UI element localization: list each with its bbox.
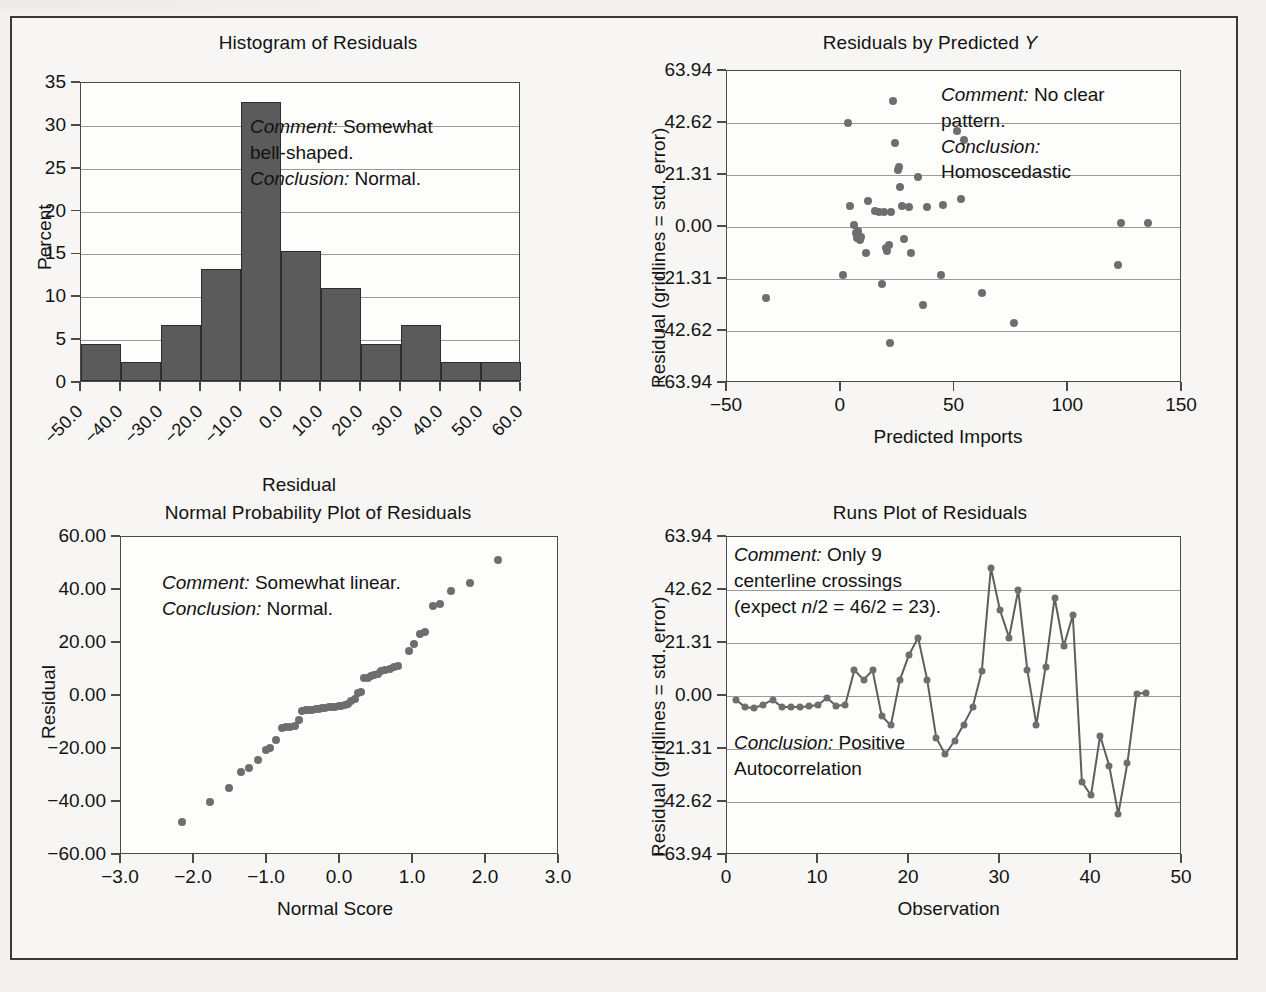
scatter-x-tick-label: 0 — [834, 394, 845, 416]
scatter-point — [844, 119, 852, 127]
runs-point — [1124, 760, 1131, 767]
npp-y-tick-label: 60.00 — [12, 525, 106, 547]
runs-point — [1051, 594, 1058, 601]
histogram-x-tick — [439, 382, 441, 391]
npp-x-axis-title: Normal Score — [277, 898, 393, 920]
npp-conclusion-label: Conclusion: — [162, 598, 261, 619]
histogram-x-tick — [519, 382, 521, 391]
npp-x-tick — [557, 854, 559, 863]
runs-y-axis-title: Residual (gridlines = std. error) — [648, 597, 670, 857]
histogram-comment-text2: bell-shaped. — [250, 140, 433, 166]
histogram-bar — [281, 251, 321, 381]
npp-point — [394, 662, 402, 670]
runs-point — [969, 704, 976, 711]
runs-point — [824, 694, 831, 701]
scatter-point — [937, 271, 945, 279]
npp-point — [245, 764, 253, 772]
npp-x-tick — [119, 854, 121, 863]
runs-annotation-bottom: Conclusion: Positive Autocorrelation — [734, 730, 905, 782]
npp-x-tick — [265, 854, 267, 863]
runs-y-tick — [717, 800, 726, 802]
histogram-y-tick-label: 10 — [12, 285, 66, 307]
scatter-x-tick-label: −50 — [710, 394, 742, 416]
histogram-bar — [481, 362, 521, 381]
npp-point — [410, 640, 418, 648]
histogram-y-tick — [71, 253, 80, 255]
runs-point — [1115, 811, 1122, 818]
runs-point — [805, 703, 812, 710]
scatter-x-tick — [725, 382, 727, 391]
histogram-x-tick — [239, 382, 241, 391]
runs-x-tick-label: 40 — [1079, 866, 1100, 888]
npp-y-tick-label: −60.00 — [12, 843, 106, 865]
histogram-gridline — [81, 212, 519, 213]
scatter-x-tick — [1066, 382, 1068, 391]
histogram-y-tick — [71, 81, 80, 83]
runs-comment-label: Comment: — [734, 544, 822, 565]
histogram-y-tick-label: 25 — [12, 157, 66, 179]
runs-comment-text: Only 9 — [822, 544, 882, 565]
npp-point — [225, 784, 233, 792]
scatter-point — [891, 139, 899, 147]
npp-x-tick — [411, 854, 413, 863]
histogram-conclusion-label: Conclusion: — [250, 168, 349, 189]
npp-x-tick-label: 2.0 — [472, 866, 498, 888]
npp-x-tick-label: −3.0 — [101, 866, 139, 888]
runs-y-tick — [717, 747, 726, 749]
npp-y-tick-label: 20.00 — [12, 631, 106, 653]
npp-point — [494, 556, 502, 564]
scatter-point — [862, 249, 870, 257]
runs-comment-text2: centerline crossings — [734, 568, 941, 594]
scatter-gridline — [727, 331, 1180, 332]
histogram-x-tick — [479, 382, 481, 391]
scatter-annotation: Comment: No clear pattern. Conclusion: H… — [941, 82, 1105, 185]
runs-point — [1069, 612, 1076, 619]
scatter-comment-text: No clear — [1029, 84, 1105, 105]
scatter-y-tick — [717, 69, 726, 71]
npp-y-tick — [111, 747, 120, 749]
runs-point — [1078, 778, 1085, 785]
npp-x-tick-label: 1.0 — [399, 866, 425, 888]
scatter-title-pre: Residuals by Predicted — [823, 32, 1025, 53]
npp-point — [254, 756, 262, 764]
runs-x-tick — [1180, 854, 1182, 863]
scatter-point — [846, 202, 854, 210]
scatter-title: Residuals by Predicted Y — [624, 32, 1236, 54]
scatter-x-tick-label: 100 — [1051, 394, 1083, 416]
runs-point — [896, 676, 903, 683]
runs-point — [951, 737, 958, 744]
figure-frame: Histogram of Residuals 05101520253035−50… — [10, 16, 1238, 960]
runs-y-tick-label: 63.94 — [624, 525, 712, 547]
npp-title: Normal Probability Plot of Residuals — [12, 502, 624, 524]
runs-x-tick — [1089, 854, 1091, 863]
histogram-x-tick — [159, 382, 161, 391]
npp-y-tick — [111, 641, 120, 643]
histogram-title: Histogram of Residuals — [12, 32, 624, 54]
npp-x-tick-label: 3.0 — [545, 866, 571, 888]
runs-point — [1015, 587, 1022, 594]
histogram-y-tick — [71, 210, 80, 212]
runs-point — [915, 634, 922, 641]
runs-point — [1042, 664, 1049, 671]
runs-point — [933, 735, 940, 742]
scatter-point — [1144, 219, 1152, 227]
scatter-y-axis-title: Residual (gridlines = std. error) — [648, 128, 670, 388]
histogram-bar — [441, 362, 481, 381]
scatter-point — [905, 203, 913, 211]
npp-y-tick — [111, 588, 120, 590]
histogram-comment-text: Somewhat — [338, 116, 433, 137]
panel-histogram: Histogram of Residuals 05101520253035−50… — [12, 18, 624, 488]
histogram-y-tick-label: 5 — [12, 328, 66, 350]
runs-conclusion-text2: Autocorrelation — [734, 756, 905, 782]
histogram-x-tick — [119, 382, 121, 391]
scatter-conclusion-text: Homoscedastic — [941, 159, 1105, 185]
runs-point — [1133, 690, 1140, 697]
runs-point — [887, 722, 894, 729]
histogram-y-tick-label: 35 — [12, 71, 66, 93]
histogram-bar — [321, 288, 361, 381]
runs-point — [1097, 732, 1104, 739]
runs-point — [1088, 792, 1095, 799]
histogram-conclusion-text: Normal. — [349, 168, 421, 189]
runs-x-tick — [816, 854, 818, 863]
scatter-x-tick-label: 150 — [1165, 394, 1197, 416]
